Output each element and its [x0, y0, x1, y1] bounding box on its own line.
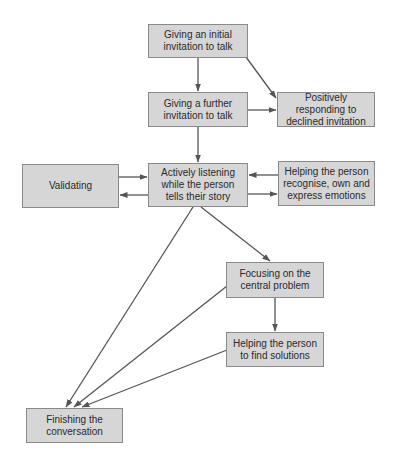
node-label: Actively listening while the person tell…	[153, 167, 243, 203]
node-express-emotions: Helping the person recognise, own and ex…	[278, 161, 375, 206]
edges-layer	[0, 0, 394, 470]
node-validating: Validating	[22, 164, 119, 208]
node-label: Giving an initial invitation to talk	[153, 29, 243, 53]
node-label: Helping the person recognise, own and ex…	[283, 166, 370, 202]
node-label: Focusing on the central problem	[231, 268, 319, 292]
edge-solutions-to-finishing	[82, 350, 227, 407]
edge-problem-to-finishing	[74, 286, 227, 407]
node-initial-invitation: Giving an initial invitation to talk	[148, 24, 248, 58]
node-finishing: Finishing the conversation	[26, 408, 123, 443]
node-label: Finishing the conversation	[31, 414, 118, 438]
node-declined-invitation: Positively responding to declined invita…	[277, 92, 375, 127]
node-label: Helping the person to find solutions	[231, 338, 319, 362]
edge-active-to-finishing	[66, 207, 193, 407]
node-label: Positively responding to declined invita…	[282, 92, 370, 128]
node-further-invitation: Giving a further invitation to talk	[148, 92, 248, 127]
node-find-solutions: Helping the person to find solutions	[226, 332, 324, 367]
node-label: Giving a further invitation to talk	[153, 98, 243, 122]
edge-initial-to-declined	[246, 57, 276, 98]
node-central-problem: Focusing on the central problem	[226, 262, 324, 298]
edge-active-to-problem	[201, 207, 270, 261]
node-label: Validating	[49, 180, 92, 192]
node-active-listening: Actively listening while the person tell…	[148, 163, 248, 207]
